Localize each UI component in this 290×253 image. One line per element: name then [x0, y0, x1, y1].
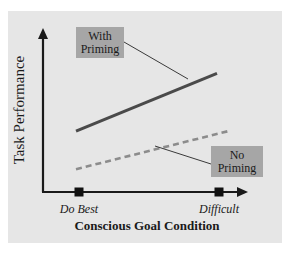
chart: Do BestDifficult WithPrimingNoPriming Ta… — [0, 0, 290, 253]
annotation-text-no-priming: Priming — [218, 161, 257, 175]
x-tick-marker — [215, 188, 224, 197]
x-tick-marker — [75, 188, 84, 197]
x-tick-label: Do Best — [59, 202, 99, 216]
annotation-text-with-priming: Priming — [81, 42, 120, 56]
annotation-text-with-priming: With — [88, 29, 112, 43]
x-axis-label: Conscious Goal Condition — [74, 218, 220, 233]
x-tick-label: Difficult — [198, 202, 240, 216]
annotation-text-no-priming: No — [230, 148, 245, 162]
y-axis-label: Task Performance — [11, 55, 27, 164]
chart-panel — [8, 11, 282, 243]
